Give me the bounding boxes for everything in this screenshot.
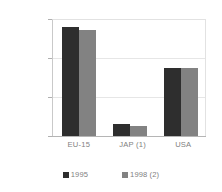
bar-chart: 1,500,000 1,000,000 500,000 0 EU-15 JAP … — [0, 0, 222, 192]
bar-usa-1998[interactable] — [181, 68, 198, 136]
bar-usa-1995[interactable] — [164, 68, 181, 136]
legend-item-1995[interactable]: 1995 — [63, 170, 88, 179]
bar-eu15-1998[interactable] — [79, 30, 96, 137]
legend-label-1995: 1995 — [71, 170, 88, 179]
x-axis-label-jap: JAP (1) — [119, 140, 146, 149]
x-axis-labels: EU-15 JAP (1) USA — [53, 140, 206, 149]
bar-group-jap — [113, 19, 147, 136]
y-tick-mark-1500000 — [48, 19, 52, 20]
legend-label-1998: 1998 (2) — [130, 170, 159, 179]
bar-jap-1995[interactable] — [113, 124, 130, 136]
x-axis-label-usa: USA — [175, 140, 191, 149]
x-axis-label-eu15: EU-15 — [68, 140, 91, 149]
y-tick-mark-1000000 — [48, 58, 52, 59]
bar-jap-1998[interactable] — [130, 126, 147, 137]
bar-group-eu15 — [62, 19, 96, 136]
legend: 1995 1998 (2) — [0, 170, 222, 179]
y-tick-mark-500000 — [48, 97, 52, 98]
bar-groups — [53, 19, 206, 136]
axis-baseline — [52, 136, 206, 137]
legend-item-1998[interactable]: 1998 (2) — [122, 170, 159, 179]
bar-group-usa — [164, 19, 198, 136]
y-tick-mark-0 — [48, 136, 52, 137]
bar-eu15-1995[interactable] — [62, 27, 79, 136]
legend-swatch-icon-1995 — [63, 172, 69, 178]
legend-swatch-icon-1998 — [122, 172, 128, 178]
